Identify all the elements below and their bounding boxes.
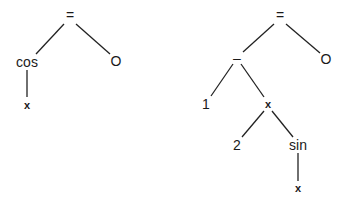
node-times: x: [265, 97, 271, 111]
node-two: 2: [233, 138, 241, 152]
edge-eq-zero: [76, 24, 110, 54]
node-x: x: [295, 181, 301, 195]
node-sin: sin: [289, 138, 307, 152]
node-equals: =: [66, 8, 74, 22]
expression-tree-diagram: = cos O x = – O 1 x 2 sin x: [0, 0, 349, 205]
node-equals: =: [276, 8, 284, 22]
edge-eq-zero: [286, 24, 320, 53]
node-zero: O: [111, 54, 122, 68]
node-one: 1: [202, 97, 210, 111]
edge-minus-times: [241, 64, 264, 97]
node-minus: –: [233, 51, 241, 65]
tree-edges: [0, 0, 349, 205]
edge-eq-cos: [36, 24, 64, 54]
edge-times-sin: [272, 111, 293, 137]
node-zero: O: [321, 52, 332, 66]
node-cos: cos: [16, 55, 38, 69]
edge-times-two: [242, 111, 264, 137]
edge-minus-one: [211, 64, 233, 96]
node-x: x: [24, 98, 30, 112]
edge-eq-minus: [243, 24, 274, 52]
